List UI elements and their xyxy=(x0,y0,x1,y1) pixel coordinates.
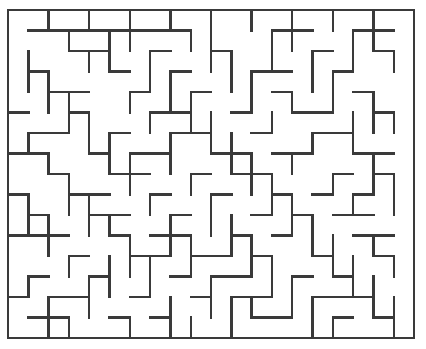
maze-canvas xyxy=(0,0,426,349)
maze-figure xyxy=(0,0,426,349)
